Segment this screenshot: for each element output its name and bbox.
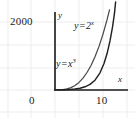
x-axis-tick-label-0: 0 — [29, 95, 35, 106]
math-figure-exponential-vs-cubic: 2000 y x 0 10 y=2x y=x3 — [0, 0, 135, 118]
curve-label-exponential-equals: = — [78, 20, 86, 31]
curve-exponential — [55, 2, 116, 90]
x-axis-tick-label-10: 10 — [96, 95, 107, 106]
y-axis-label: y — [58, 11, 62, 20]
curve-label-exponential-exponent: x — [91, 19, 94, 26]
curve-label-cubic-equals: = — [60, 58, 68, 69]
curve-label-exponential: y=2x — [74, 20, 94, 31]
x-axis-label: x — [118, 75, 122, 84]
curve-label-cubic: y=x3 — [56, 58, 76, 69]
curve-label-cubic-exponent: 3 — [73, 57, 76, 64]
y-axis-tick-label-2000: 2000 — [10, 16, 33, 27]
